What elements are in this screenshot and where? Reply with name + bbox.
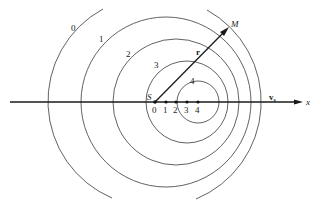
position-label-4: 4 [195, 105, 200, 115]
wavefront-0 [48, 9, 261, 199]
ray-s-to-m [155, 31, 225, 102]
x-axis-arrowhead-icon [294, 100, 303, 105]
wavefront-label-4: 4 [190, 76, 195, 86]
position-label-1: 1 [163, 105, 168, 115]
observer-label: M [230, 19, 239, 29]
wavefront-label-0: 0 [71, 23, 76, 33]
position-label-0: 0 [152, 105, 157, 115]
wavefront-label-3: 3 [154, 60, 159, 70]
velocity-label: vs [269, 92, 277, 103]
x-axis-label: x [305, 97, 310, 107]
distance-label: r [196, 47, 200, 57]
wavefront-label-1: 1 [99, 34, 104, 44]
position-label-2: 2 [173, 105, 178, 115]
doppler-wavefront-diagram: 0 1 2 3 4 0 1 2 3 4 S M r vs x [0, 0, 314, 209]
wavefront-label-2: 2 [126, 49, 131, 59]
source-label: S [147, 92, 152, 102]
position-label-3: 3 [184, 105, 189, 115]
